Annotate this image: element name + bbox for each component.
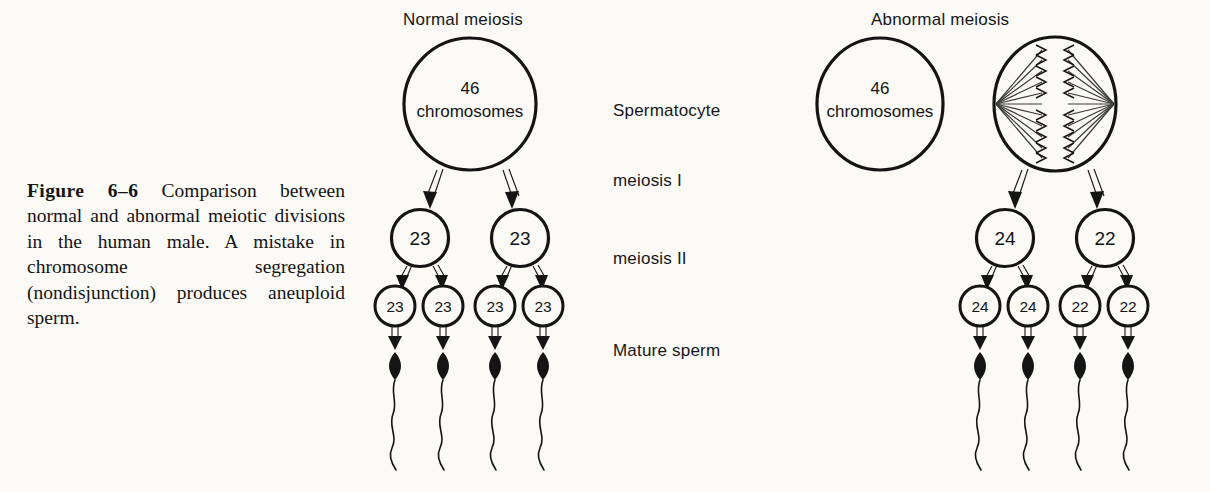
panel-title-abnormal: Abnormal meiosis: [871, 10, 1009, 30]
arrow-sperm-normal-2: [436, 327, 450, 350]
meiosis-i-count-abnormal-1: 24: [994, 228, 1016, 249]
arrow-meiosis-ii-normal-3: [496, 265, 512, 290]
arrow-sperm-normal-3: [488, 327, 502, 350]
meiosis-i-count-normal-2: 23: [509, 228, 530, 249]
arrow-sperm-abnormal-3: [1073, 327, 1087, 350]
spindle-fibers-left: [996, 50, 1042, 158]
meiosis-i-count-normal-1: 23: [409, 228, 430, 249]
arrow-meiosis-i-right-normal: [503, 169, 519, 209]
meiosis-ii-count-normal-4: 23: [534, 298, 551, 315]
spermatocyte-unit-normal: chromosomes: [417, 102, 524, 121]
meiosis-ii-count-abnormal-2: 24: [1019, 298, 1037, 315]
meiosis-ii-count-abnormal-3: 22: [1071, 298, 1088, 315]
stage-label-mature-sperm: Mature sperm: [613, 341, 720, 361]
arrow-meiosis-ii-abnormal-3: [1081, 265, 1097, 290]
arrow-meiosis-ii-abnormal-2: [1018, 265, 1033, 290]
mature-sperm-normal-2: [437, 352, 449, 470]
arrow-meiosis-ii-normal-2: [433, 265, 448, 290]
panel-abnormal-meiosis: 46 chromosomes: [817, 37, 1148, 470]
arrow-sperm-normal-4: [536, 327, 550, 350]
arrow-meiosis-i-left-abnormal: [1008, 169, 1028, 209]
mature-sperm-abnormal-1: [974, 352, 986, 470]
arrow-meiosis-i-right-abnormal: [1088, 169, 1104, 209]
meiosis-ii-cell-abnormal-2: 24: [1008, 286, 1048, 326]
meiosis-ii-cell-normal-4: 23: [523, 286, 563, 326]
meiosis-ii-cell-abnormal-4: 22: [1108, 286, 1148, 326]
spermatocyte-unit-abnormal: chromosomes: [827, 102, 934, 121]
meiosis-ii-count-abnormal-4: 22: [1119, 298, 1136, 315]
meiosis-ii-count-abnormal-1: 24: [971, 298, 989, 315]
meiosis-ii-count-normal-3: 23: [486, 298, 503, 315]
meiosis-ii-cell-normal-1: 23: [375, 286, 415, 326]
spindle-fibers-right: [1068, 50, 1114, 158]
mature-sperm-normal-3: [489, 352, 501, 470]
arrow-sperm-normal-1: [388, 327, 402, 350]
spermatocyte-count-abnormal: 46: [871, 79, 890, 98]
meiosis-ii-count-normal-2: 23: [434, 298, 451, 315]
meiosis-ii-cell-normal-3: 23: [475, 286, 515, 326]
mature-sperm-abnormal-3: [1074, 352, 1086, 470]
meiosis-ii-cell-normal-2: 23: [423, 286, 463, 326]
mature-sperm-normal-4: [537, 352, 549, 470]
metaphase-spindle-cell: [994, 37, 1116, 171]
meiosis-i-cell-abnormal-2: 22: [1077, 210, 1134, 267]
arrow-sperm-abnormal-4: [1121, 327, 1135, 350]
panel-normal-meiosis: 46 chromosomes 23 23: [375, 38, 563, 470]
arrow-meiosis-ii-abnormal-4: [1118, 265, 1133, 290]
arrow-meiosis-ii-abnormal-1: [981, 265, 997, 290]
meiosis-ii-cell-abnormal-1: 24: [960, 286, 1000, 326]
meiosis-i-count-abnormal-2: 22: [1094, 228, 1115, 249]
meiosis-i-cell-normal-2: 23: [492, 210, 549, 267]
spermatocyte-cell-abnormal: 46 chromosomes: [817, 38, 943, 170]
figure-caption: Figure 6–6 Comparison between normal and…: [27, 178, 345, 330]
metaphase-chromosomes: [1036, 45, 1074, 163]
figure-page: Figure 6–6 Comparison between normal and…: [0, 0, 1210, 492]
panel-title-normal: Normal meiosis: [403, 10, 523, 30]
arrow-meiosis-i-left-normal: [423, 169, 443, 209]
mature-sperm-abnormal-4: [1122, 352, 1134, 470]
figure-label: Figure 6–6: [27, 180, 138, 201]
arrow-sperm-abnormal-2: [1021, 327, 1035, 350]
spermatocyte-count-normal: 46: [461, 79, 480, 98]
stage-label-meiosis-ii: meiosis II: [613, 249, 687, 269]
figure-caption-text: Comparison between normal and abnormal m…: [27, 180, 345, 328]
meiosis-i-cell-normal-1: 23: [392, 210, 449, 267]
mature-sperm-normal-1: [389, 352, 401, 470]
stage-label-spermatocyte: Spermatocyte: [613, 101, 720, 121]
stage-label-meiosis-i: meiosis I: [613, 171, 682, 191]
spermatocyte-cell-normal: 46 chromosomes: [404, 38, 536, 170]
arrow-meiosis-ii-normal-1: [396, 265, 412, 290]
meiosis-ii-count-normal-1: 23: [386, 298, 403, 315]
arrow-meiosis-ii-normal-4: [533, 265, 548, 290]
meiosis-i-cell-abnormal-1: 24: [977, 210, 1034, 267]
mature-sperm-abnormal-2: [1022, 352, 1034, 470]
meiosis-ii-cell-abnormal-3: 22: [1060, 286, 1100, 326]
arrow-sperm-abnormal-1: [973, 327, 987, 350]
